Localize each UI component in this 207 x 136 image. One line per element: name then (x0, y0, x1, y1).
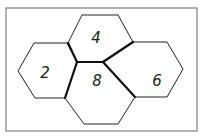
thick-shared-edge (103, 42, 133, 62)
thick-shared-edge (68, 43, 77, 62)
diagram-frame (6, 8, 197, 131)
hex-6 (103, 42, 183, 97)
thick-shared-edge (103, 62, 135, 97)
thick-shared-edge (65, 62, 77, 98)
label-layer: 4268 (40, 29, 162, 90)
hex-2-label: 2 (40, 64, 50, 82)
hex-6-label: 6 (152, 72, 162, 90)
hexagon-diagram: 4268 (0, 0, 207, 136)
hex-4-label: 4 (91, 29, 101, 47)
hex-8-label: 8 (92, 72, 102, 90)
